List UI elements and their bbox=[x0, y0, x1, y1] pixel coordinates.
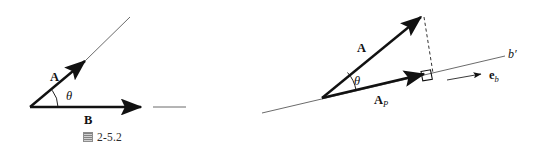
figure-2-5-2-drawing: A B θ bbox=[0, 0, 269, 130]
figure-sheet: A B θ 2-5.2 bbox=[0, 0, 538, 161]
vector-ap-subscript: P bbox=[382, 99, 388, 109]
caption-number: 2-5.2 bbox=[97, 131, 122, 143]
unit-vector-arrow bbox=[447, 74, 481, 80]
vector-ap-main: A bbox=[374, 93, 383, 107]
angle-theta-label: θ bbox=[66, 89, 72, 103]
angle-theta-label: θ bbox=[354, 74, 360, 88]
unit-vector-subscript: b bbox=[495, 74, 499, 84]
vector-a-extension-line bbox=[86, 17, 130, 60]
figure-2-5-3: A θ AP b b′ eb 2-5.3 bbox=[260, 0, 538, 161]
vector-a-label: A bbox=[357, 41, 366, 55]
vector-ap-label: AP bbox=[374, 93, 388, 109]
angle-arc-theta bbox=[52, 90, 58, 107]
axis-bprime-label: b′ bbox=[508, 47, 517, 61]
cjk-tu-character-icon bbox=[83, 132, 93, 142]
projection-dashed-line bbox=[424, 17, 433, 73]
vector-b-label: B bbox=[84, 113, 92, 127]
figure-2-5-2: A B θ 2-5.2 bbox=[0, 0, 269, 161]
vector-a-label: A bbox=[50, 70, 59, 84]
caption-figure-2-5-2: 2-5.2 bbox=[83, 131, 122, 143]
figure-2-5-3-drawing: A θ AP b b′ eb bbox=[260, 0, 538, 130]
unit-vector-label: eb bbox=[489, 68, 499, 84]
